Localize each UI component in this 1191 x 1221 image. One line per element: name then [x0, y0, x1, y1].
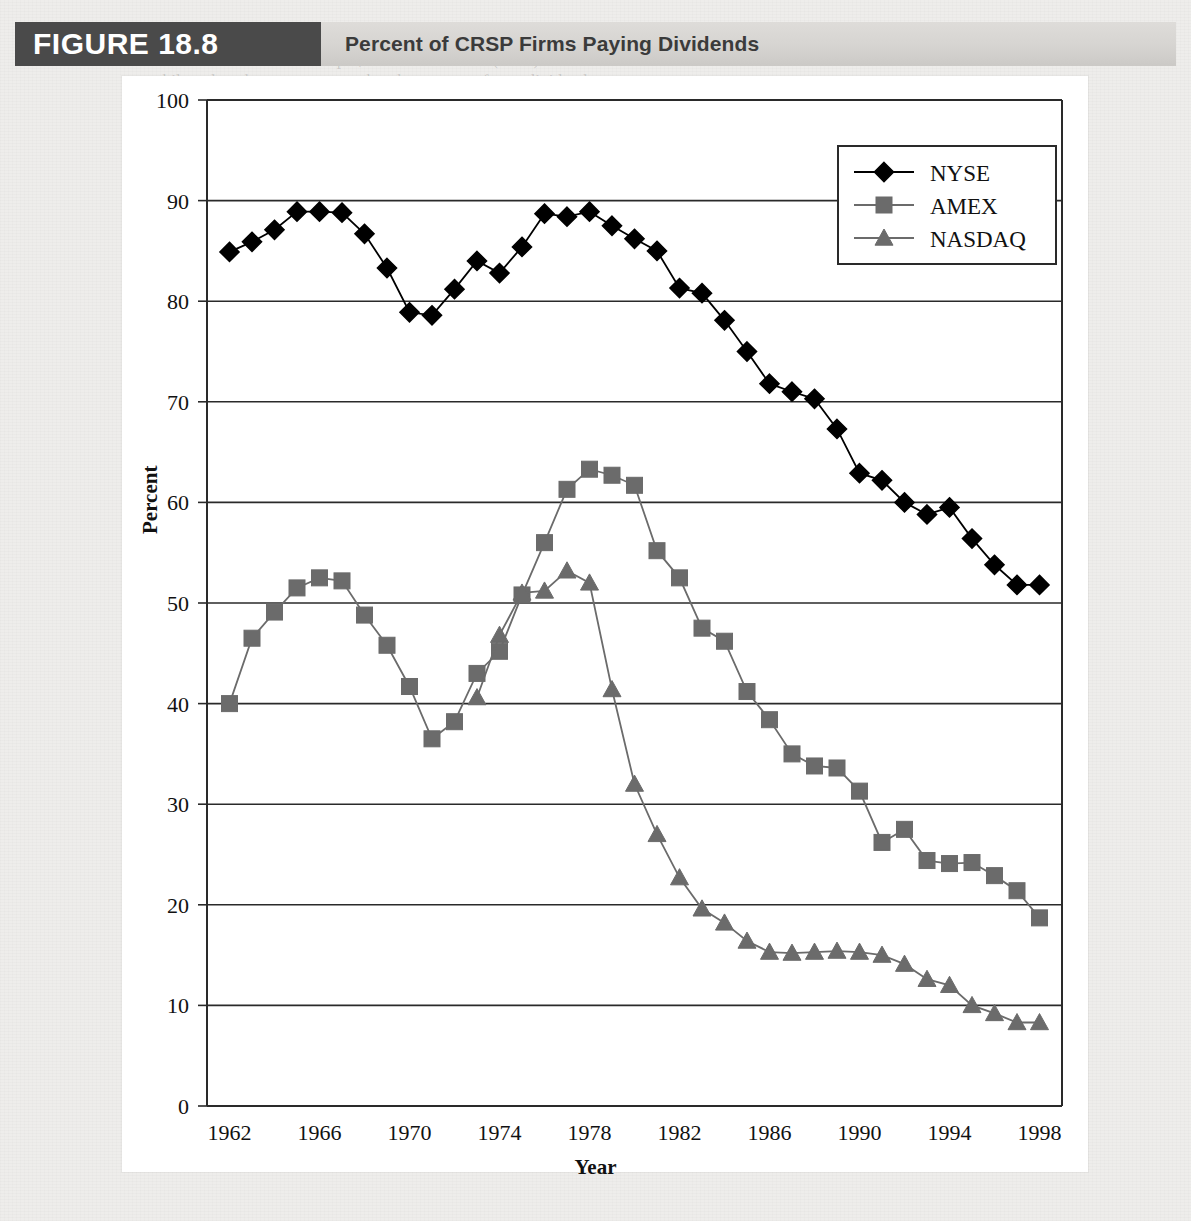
chart-legend: NYSEAMEXNASDAQ [838, 146, 1056, 264]
y-tick-label: 50 [167, 591, 189, 616]
data-point-diamond [648, 241, 667, 260]
data-point-square [447, 714, 463, 730]
data-point-diamond [603, 216, 622, 235]
x-tick-label: 1966 [298, 1120, 342, 1145]
data-point-diamond [468, 251, 487, 270]
legend-label-nasdaq: NASDAQ [930, 227, 1026, 252]
gridlines [207, 201, 1062, 1006]
data-point-square [876, 197, 892, 213]
data-point-diamond [400, 303, 419, 322]
data-point-square [1009, 883, 1025, 899]
data-point-square [289, 580, 305, 596]
series-nasdaq [468, 562, 1049, 1030]
x-tick-labels: 1962196619701974197819821986199019941998 [208, 1120, 1062, 1145]
y-tick-label: 0 [178, 1094, 189, 1119]
data-point-diamond [220, 242, 239, 261]
data-point-square [267, 604, 283, 620]
data-point-square [874, 834, 890, 850]
legend-label-amex: AMEX [930, 194, 998, 219]
data-point-square [424, 731, 440, 747]
data-point-diamond [670, 279, 689, 298]
data-point-square [334, 573, 350, 589]
data-point-square [604, 467, 620, 483]
y-tick-labels: 0102030405060708090100 [156, 88, 189, 1119]
x-tick-label: 1994 [928, 1120, 972, 1145]
data-point-diamond [265, 220, 284, 239]
data-point-triangle [738, 932, 756, 948]
x-tick-label: 1974 [478, 1120, 522, 1145]
data-point-triangle [761, 943, 779, 959]
data-point-triangle [581, 574, 599, 590]
data-point-diamond [558, 207, 577, 226]
data-point-diamond [783, 382, 802, 401]
data-point-diamond [1030, 575, 1049, 594]
data-point-square [739, 684, 755, 700]
data-point-diamond [828, 419, 847, 438]
data-point-diamond [940, 498, 959, 517]
x-tick-label: 1962 [208, 1120, 252, 1145]
data-point-square [672, 570, 688, 586]
series-line [477, 571, 1040, 1023]
data-point-square [469, 665, 485, 681]
data-point-triangle [716, 914, 734, 930]
data-point-square [312, 570, 328, 586]
data-point-diamond [738, 342, 757, 361]
x-tick-label: 1982 [658, 1120, 702, 1145]
x-tick-label: 1998 [1018, 1120, 1062, 1145]
data-point-square [942, 856, 958, 872]
data-point-square [964, 855, 980, 871]
data-point-square [919, 853, 935, 869]
data-point-square [784, 746, 800, 762]
data-point-triangle [986, 1004, 1004, 1020]
data-point-triangle [896, 955, 914, 971]
y-tick-label: 60 [167, 490, 189, 515]
data-point-square [694, 620, 710, 636]
data-point-diamond [580, 202, 599, 221]
y-tick-label: 10 [167, 993, 189, 1018]
data-point-square [537, 535, 553, 551]
y-tick-label: 100 [156, 88, 189, 113]
x-tick-label: 1970 [388, 1120, 432, 1145]
x-tick-label: 1978 [568, 1120, 612, 1145]
y-tick-label: 90 [167, 189, 189, 214]
data-point-square [379, 637, 395, 653]
data-point-triangle [603, 681, 621, 697]
data-point-square [649, 543, 665, 559]
data-point-square [1032, 910, 1048, 926]
y-tick-label: 70 [167, 390, 189, 415]
series-line [230, 469, 1040, 918]
y-tick-label: 20 [167, 893, 189, 918]
data-point-square [559, 481, 575, 497]
data-point-diamond [535, 204, 554, 223]
data-point-diamond [805, 389, 824, 408]
series-amex [222, 461, 1048, 926]
data-point-triangle [468, 689, 486, 705]
data-point-diamond [760, 374, 779, 393]
data-point-square [852, 783, 868, 799]
data-point-square [829, 760, 845, 776]
data-point-triangle [648, 825, 666, 841]
line-chart: 0102030405060708090100 19621966197019741… [0, 0, 1191, 1221]
data-point-square [717, 633, 733, 649]
data-point-diamond [850, 464, 869, 483]
data-point-diamond [310, 202, 329, 221]
data-point-square [402, 678, 418, 694]
y-tick-label: 80 [167, 289, 189, 314]
data-point-diamond [243, 232, 262, 251]
data-point-triangle [558, 562, 576, 578]
data-point-square [762, 712, 778, 728]
data-point-square [222, 696, 238, 712]
data-point-triangle [693, 900, 711, 916]
data-point-square [627, 477, 643, 493]
data-point-square [244, 630, 260, 646]
legend-label-nyse: NYSE [930, 161, 990, 186]
data-point-square [897, 821, 913, 837]
series-line [230, 212, 1040, 585]
data-point-square [582, 461, 598, 477]
data-point-triangle [626, 775, 644, 791]
data-point-square [807, 758, 823, 774]
data-point-triangle [828, 942, 846, 958]
data-point-diamond [625, 229, 644, 248]
data-point-triangle [671, 869, 689, 885]
y-tick-label: 40 [167, 692, 189, 717]
